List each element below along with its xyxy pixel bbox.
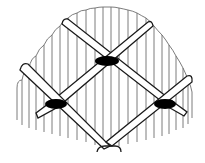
- net-illustration: [0, 0, 205, 163]
- knot-top: [95, 56, 119, 66]
- knot-right: [154, 99, 176, 109]
- knots: [45, 56, 176, 109]
- fringe-strands: [17, 7, 192, 147]
- cords: [20, 19, 192, 149]
- net-diagram: [0, 0, 205, 163]
- knot-left: [45, 99, 67, 109]
